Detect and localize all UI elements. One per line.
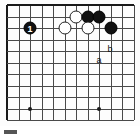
white-stone-lower-1[interactable] xyxy=(58,22,71,35)
stone-move-number: 1 xyxy=(25,23,36,34)
figure-caption xyxy=(0,126,140,137)
point-label-a[interactable]: a xyxy=(96,56,101,65)
black-stone-lower-1[interactable] xyxy=(104,22,117,35)
grid-line-horizontal-10 xyxy=(7,120,134,121)
grid-line-horizontal-0 xyxy=(7,4,134,6)
grid-line-horizontal-6 xyxy=(7,74,134,75)
star-point-right xyxy=(97,107,101,111)
black-stone-1[interactable]: 1 xyxy=(24,22,37,35)
caption-bar-icon xyxy=(4,130,17,134)
point-label-b[interactable]: b xyxy=(107,45,112,54)
go-board[interactable]: 1 ba xyxy=(0,0,140,126)
white-stone-lower-2[interactable] xyxy=(81,22,94,35)
star-point-left xyxy=(28,107,32,111)
grid-line-horizontal-4 xyxy=(7,51,134,52)
grid-line-horizontal-3 xyxy=(7,40,134,41)
grid-line-vertical-11 xyxy=(134,5,135,120)
go-diagram: 1 ba xyxy=(0,0,140,137)
grid-line-horizontal-9 xyxy=(7,109,134,110)
grid-line-horizontal-7 xyxy=(7,86,134,87)
black-stone-upper-2[interactable] xyxy=(93,10,106,23)
grid-line-horizontal-8 xyxy=(7,97,134,98)
grid-line-horizontal-5 xyxy=(7,63,134,64)
